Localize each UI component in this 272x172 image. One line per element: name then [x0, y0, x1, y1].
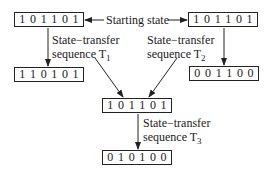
- bit: 0: [39, 68, 49, 81]
- t2-line1: State−transfer: [147, 33, 214, 47]
- bit: 1: [49, 68, 59, 81]
- t1-line1: State−transfer: [52, 33, 119, 47]
- bit: 1: [214, 67, 224, 80]
- bit: 0: [60, 13, 70, 26]
- starting-state-label: Starting state: [106, 13, 169, 27]
- bit: 1: [159, 99, 169, 112]
- bit: 1: [17, 13, 27, 26]
- transition-label-t1: State−transfer sequence T1: [52, 33, 119, 65]
- bit: 0: [235, 67, 245, 80]
- t1-line2: sequence T1: [52, 47, 119, 65]
- transition-label-t3: State−transfer sequence T3: [143, 116, 210, 148]
- bit: 1: [213, 13, 223, 26]
- t3-line1: State−transfer: [143, 116, 210, 130]
- bit: 0: [192, 67, 202, 80]
- bit: 1: [224, 67, 234, 80]
- bit: 0: [60, 68, 70, 81]
- state-box-start-left: 1 0 1 1 0 1: [14, 12, 84, 27]
- bit: 1: [245, 13, 255, 26]
- bit: 1: [116, 151, 126, 164]
- bit: 1: [39, 13, 49, 26]
- bit: 1: [71, 68, 81, 81]
- bit: 1: [105, 99, 115, 112]
- bit: 1: [127, 99, 137, 112]
- state-box-result-t2: 0 0 1 1 0 0: [189, 66, 259, 81]
- bit: 0: [234, 13, 244, 26]
- bit: 1: [28, 68, 38, 81]
- bit: 1: [71, 13, 81, 26]
- state-box-middle: 1 0 1 1 0 1: [102, 98, 172, 113]
- state-box-start-right: 1 0 1 1 0 1: [188, 12, 258, 27]
- bit: 0: [28, 13, 38, 26]
- transition-label-t2: State−transfer sequence T2: [147, 33, 214, 65]
- bit: 0: [127, 151, 137, 164]
- bit: 0: [116, 99, 126, 112]
- bit: 1: [137, 151, 147, 164]
- bit: 0: [105, 151, 115, 164]
- state-box-result-t1: 1 1 0 1 0 1: [14, 67, 84, 82]
- bit: 1: [137, 99, 147, 112]
- bit: 1: [49, 13, 59, 26]
- t2-line2: sequence T2: [147, 47, 214, 65]
- bit: 0: [148, 151, 158, 164]
- bit: 0: [148, 99, 158, 112]
- bit: 1: [223, 13, 233, 26]
- bit: 1: [191, 13, 201, 26]
- bit: 0: [203, 67, 213, 80]
- t3-line2: sequence T3: [143, 130, 210, 148]
- bit: 1: [17, 68, 27, 81]
- bit: 0: [246, 67, 256, 80]
- bit: 0: [202, 13, 212, 26]
- bit: 0: [159, 151, 169, 164]
- state-box-result-t3: 0 1 0 1 0 0: [102, 150, 172, 165]
